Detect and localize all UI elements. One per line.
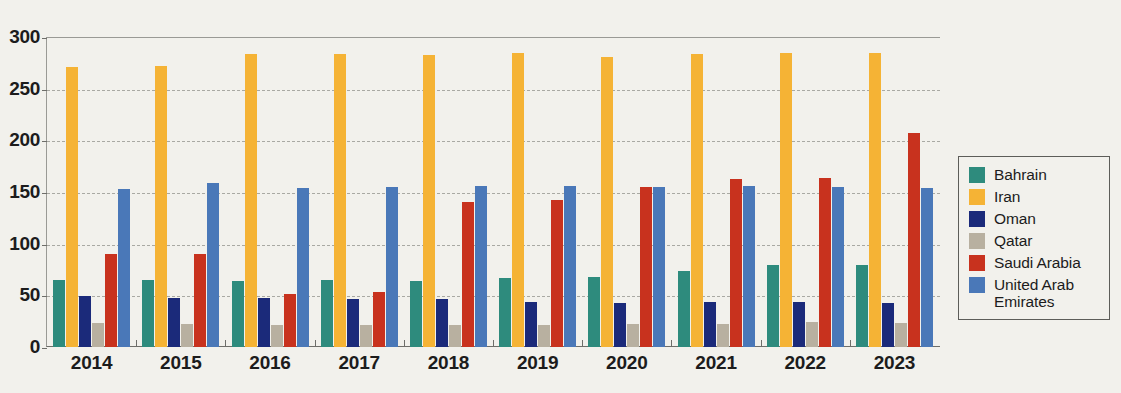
legend-swatch-icon [969, 255, 985, 271]
bar-iran-2015[interactable] [155, 66, 167, 347]
bar-group-2021 [671, 37, 760, 347]
bar-oman-2021[interactable] [704, 302, 716, 347]
y-axis-tick-label: 300 [0, 26, 40, 48]
bar-oman-2015[interactable] [168, 298, 180, 347]
legend-item[interactable]: Saudi Arabia [969, 254, 1101, 271]
bar-bahrain-2018[interactable] [410, 281, 422, 347]
bar-saudi-arabia-2017[interactable] [373, 292, 385, 347]
bar-saudi-arabia-2021[interactable] [730, 179, 742, 347]
bar-iran-2023[interactable] [869, 53, 881, 348]
x-axis-tick-mark [136, 340, 137, 347]
bar-bahrain-2016[interactable] [232, 281, 244, 347]
bar-group-2019 [493, 37, 582, 347]
bar-qatar-2019[interactable] [538, 325, 550, 347]
bar-united-arab-emirates-2018[interactable] [475, 186, 487, 347]
bar-united-arab-emirates-2020[interactable] [653, 187, 665, 347]
bar-iran-2019[interactable] [512, 53, 524, 348]
bar-oman-2014[interactable] [79, 296, 91, 347]
x-axis-tick-mark [761, 340, 762, 347]
bar-bahrain-2022[interactable] [767, 265, 779, 347]
bar-iran-2020[interactable] [601, 57, 613, 347]
bar-saudi-arabia-2019[interactable] [551, 200, 563, 347]
x-axis-tick-label: 2020 [582, 352, 671, 382]
legend-item[interactable]: Iran [969, 188, 1101, 205]
bar-united-arab-emirates-2021[interactable] [743, 186, 755, 347]
legend-swatch-icon [969, 277, 985, 293]
bar-saudi-arabia-2018[interactable] [462, 202, 474, 347]
bar-qatar-2022[interactable] [806, 322, 818, 347]
bar-oman-2017[interactable] [347, 299, 359, 347]
bar-united-arab-emirates-2015[interactable] [207, 183, 219, 347]
legend-item[interactable]: United Arab Emirates [969, 276, 1101, 310]
bars-layer [47, 37, 939, 347]
legend-swatch-icon [969, 189, 985, 205]
x-axis-tick-mark [315, 340, 316, 347]
bar-oman-2019[interactable] [525, 302, 537, 347]
bar-oman-2018[interactable] [436, 299, 448, 347]
bar-saudi-arabia-2023[interactable] [908, 133, 920, 347]
legend-label: Qatar [994, 232, 1032, 249]
bar-bahrain-2020[interactable] [588, 277, 600, 347]
legend-swatch-icon [969, 167, 985, 183]
bar-saudi-arabia-2014[interactable] [105, 254, 117, 347]
bar-saudi-arabia-2015[interactable] [194, 254, 206, 347]
bar-saudi-arabia-2016[interactable] [284, 294, 296, 347]
y-axis: 050100150200250300 [0, 37, 40, 347]
y-axis-tick-label: 0 [0, 336, 40, 358]
x-axis-tick-mark [582, 340, 583, 347]
bar-bahrain-2023[interactable] [856, 265, 868, 347]
bar-oman-2016[interactable] [258, 298, 270, 347]
bar-united-arab-emirates-2022[interactable] [832, 187, 844, 347]
legend-label: Saudi Arabia [994, 254, 1081, 271]
bar-iran-2014[interactable] [66, 67, 78, 347]
x-axis-tick-label: 2019 [493, 352, 582, 382]
bar-qatar-2015[interactable] [181, 324, 193, 347]
bar-bahrain-2015[interactable] [142, 280, 154, 347]
bar-qatar-2020[interactable] [627, 324, 639, 347]
bar-qatar-2023[interactable] [895, 323, 907, 347]
legend-item[interactable]: Oman [969, 210, 1101, 227]
bar-group-2018 [404, 37, 493, 347]
x-axis-tick-label: 2016 [225, 352, 314, 382]
y-axis-tick-label: 100 [0, 233, 40, 255]
bar-united-arab-emirates-2017[interactable] [386, 187, 398, 347]
legend-label: Oman [994, 210, 1036, 227]
x-axis: 2014201520162017201820192020202120222023 [47, 352, 939, 382]
bar-saudi-arabia-2022[interactable] [819, 178, 831, 347]
bar-united-arab-emirates-2019[interactable] [564, 186, 576, 347]
x-axis-tick-label: 2021 [671, 352, 760, 382]
bar-iran-2016[interactable] [245, 54, 257, 347]
bar-bahrain-2021[interactable] [678, 271, 690, 347]
bar-bahrain-2019[interactable] [499, 278, 511, 347]
legend-label: Iran [994, 188, 1020, 205]
legend-swatch-icon [969, 211, 985, 227]
bar-qatar-2016[interactable] [271, 325, 283, 347]
bar-qatar-2017[interactable] [360, 325, 372, 347]
chart-legend: BahrainIranOmanQatarSaudi ArabiaUnited A… [958, 156, 1110, 320]
x-axis-tick-mark [493, 340, 494, 347]
bar-group-2023 [850, 37, 939, 347]
bar-iran-2017[interactable] [334, 54, 346, 347]
bar-oman-2020[interactable] [614, 303, 626, 347]
x-axis-tick-mark [225, 340, 226, 347]
bar-iran-2021[interactable] [691, 54, 703, 347]
bar-iran-2018[interactable] [423, 55, 435, 347]
legend-item[interactable]: Bahrain [969, 166, 1101, 183]
bar-saudi-arabia-2020[interactable] [640, 187, 652, 347]
bar-united-arab-emirates-2023[interactable] [921, 188, 933, 347]
y-axis-tick-label: 150 [0, 181, 40, 203]
bar-qatar-2014[interactable] [92, 323, 104, 347]
bar-united-arab-emirates-2016[interactable] [297, 188, 309, 347]
x-axis-tick-label: 2014 [47, 352, 136, 382]
bar-qatar-2018[interactable] [449, 325, 461, 347]
bar-iran-2022[interactable] [780, 53, 792, 348]
bar-united-arab-emirates-2014[interactable] [118, 189, 130, 347]
bar-oman-2023[interactable] [882, 303, 894, 347]
bar-qatar-2021[interactable] [717, 324, 729, 347]
legend-item[interactable]: Qatar [969, 232, 1101, 249]
bar-bahrain-2017[interactable] [321, 280, 333, 347]
bar-bahrain-2014[interactable] [53, 280, 65, 347]
x-axis-tick-mark [404, 340, 405, 347]
bar-oman-2022[interactable] [793, 302, 805, 347]
legend-label: Bahrain [994, 166, 1047, 183]
